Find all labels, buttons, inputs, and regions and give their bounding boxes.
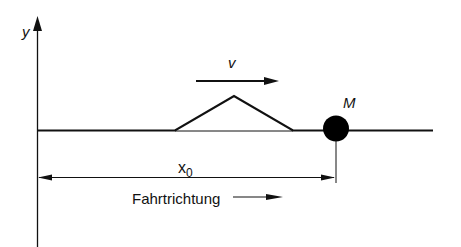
dimension-left-arrowhead-icon (38, 175, 52, 181)
dimension-x0: x0 (38, 159, 335, 181)
mass-label: M (343, 94, 356, 111)
velocity-arrowhead-icon (264, 77, 279, 85)
road-profile-with-bump (37, 96, 433, 131)
mass-point: M (323, 94, 356, 183)
diagram-canvas: y v M x0 Fahrtrichtung (0, 0, 461, 247)
velocity-indicator: v (196, 54, 279, 85)
dimension-label: x0 (178, 159, 193, 180)
direction-indicator: Fahrtrichtung (132, 190, 283, 207)
dimension-right-arrowhead-icon (321, 175, 335, 181)
direction-label: Fahrtrichtung (132, 190, 220, 207)
mass-ball (323, 116, 349, 142)
velocity-label: v (228, 54, 237, 71)
y-axis-label: y (21, 23, 31, 40)
direction-arrowhead-icon (266, 194, 283, 200)
dimension-label-subscript: 0 (186, 166, 193, 180)
y-axis-arrowhead-icon (33, 16, 42, 31)
road (37, 96, 433, 131)
dimension-label-main: x (178, 159, 186, 176)
